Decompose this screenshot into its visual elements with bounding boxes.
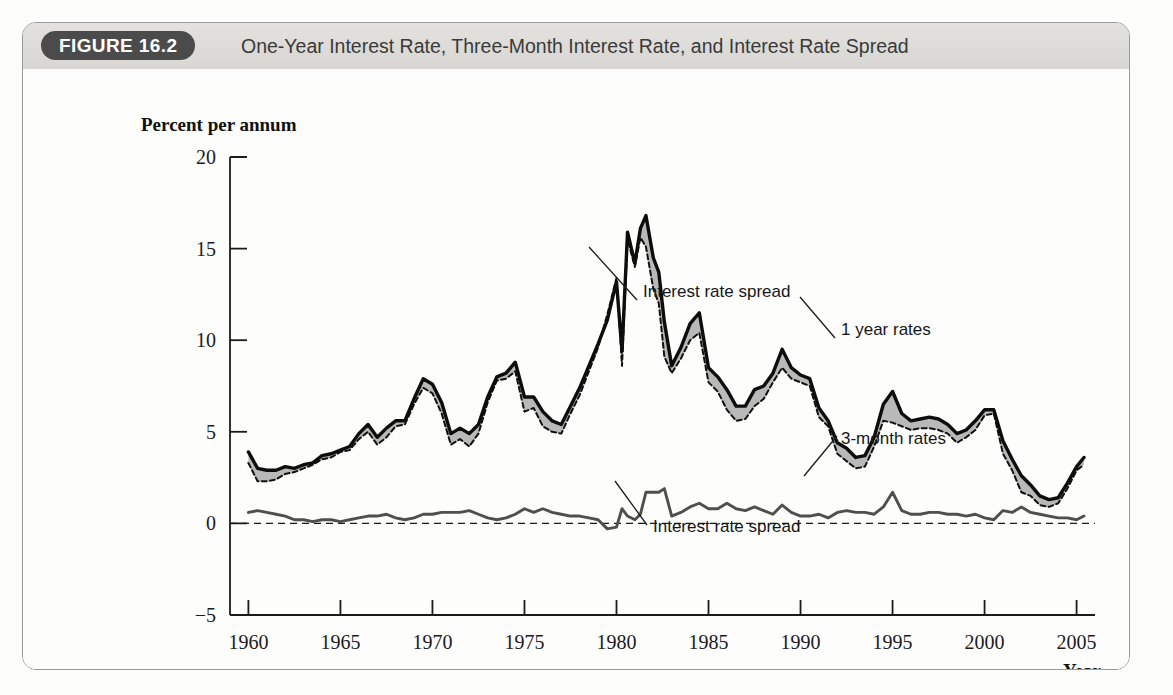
x-axis-title: Year	[1063, 660, 1102, 670]
x-tick-label: 2005	[1057, 631, 1097, 653]
x-tick-label: 1985	[689, 631, 729, 653]
plot-area: 20151050−5 19601965197019751980198519901…	[23, 69, 1129, 670]
y-tick-labels: 20151050−5	[195, 146, 216, 626]
y-tick-label: 0	[206, 512, 216, 534]
x-tick-label: 1965	[320, 631, 360, 653]
y-tick-label: 10	[196, 329, 216, 351]
y-tick-label: 5	[206, 421, 216, 443]
annotation-one-year: 1 year rates	[841, 320, 931, 339]
three-month-rate-line	[248, 238, 1084, 507]
y-axis-title: Percent per annum	[141, 114, 297, 135]
annotation-spread-lower: Interest rate spread	[653, 517, 800, 536]
figure-number-badge: FIGURE 16.2	[41, 31, 195, 60]
x-tick-label: 1990	[781, 631, 821, 653]
x-tick-label: 1975	[504, 631, 544, 653]
figure-page: the production of goods and services in …	[0, 0, 1173, 695]
annotation-spread-upper: Interest rate spread	[643, 282, 790, 301]
figure-frame: FIGURE 16.2 One-Year Interest Rate, Thre…	[22, 22, 1130, 670]
x-tick-label: 2000	[965, 631, 1005, 653]
y-tick-label: 20	[196, 146, 216, 168]
leader-three-month	[804, 436, 837, 476]
x-tick-label: 1995	[873, 631, 913, 653]
leader-one-year	[800, 297, 835, 338]
figure-header: FIGURE 16.2 One-Year Interest Rate, Thre…	[23, 23, 1129, 70]
y-tick-marks	[230, 157, 247, 615]
figure-title: One-Year Interest Rate, Three-Month Inte…	[241, 32, 909, 61]
x-tick-label: 1970	[412, 631, 452, 653]
annotation-three-month: 3-month rates	[841, 429, 946, 448]
x-tick-labels: 1960196519701975198019851990199520002005	[228, 631, 1096, 653]
x-tick-label: 1960	[228, 631, 268, 653]
y-tick-label: 15	[196, 238, 216, 260]
interest-rate-chart: 20151050−5 19601965197019751980198519901…	[23, 69, 1130, 670]
y-tick-label: −5	[195, 604, 216, 626]
x-tick-label: 1980	[596, 631, 636, 653]
x-tick-marks	[248, 600, 1076, 615]
